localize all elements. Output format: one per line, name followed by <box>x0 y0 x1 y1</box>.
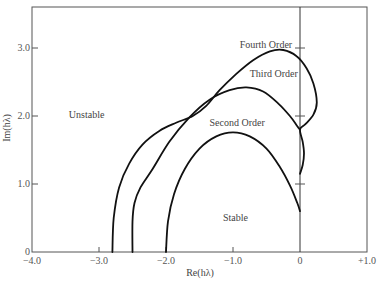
y-tick-label: 1.0 <box>18 178 31 189</box>
x-axis-label: Re(hλ) <box>186 267 214 279</box>
x-tick-label: 0 <box>298 255 303 266</box>
y-axis-label: Im(hλ) <box>1 114 13 142</box>
y-tick-label: 2.0 <box>18 110 31 121</box>
plot-frame <box>32 7 367 252</box>
annotations: Fourth OrderThird OrderSecond OrderUnsta… <box>69 39 299 223</box>
x-axis-ticks: −4.0−3.0−2.0−1.00+1.0 <box>23 247 376 266</box>
label-fourth-order: Fourth Order <box>240 39 293 50</box>
stability-curves <box>112 50 316 252</box>
x-tick-label: +1.0 <box>358 255 376 266</box>
label-stable: Stable <box>223 212 249 223</box>
label-third-order: Third Order <box>250 68 299 79</box>
label-unstable: Unstable <box>69 109 105 120</box>
y-tick-label: 3.0 <box>18 42 31 53</box>
stability-region-chart: −4.0−3.0−2.0−1.00+1.0 01.02.03.0 Fourth … <box>0 0 381 285</box>
x-tick-label: −2.0 <box>157 255 175 266</box>
x-tick-label: −3.0 <box>90 255 108 266</box>
label-second-order: Second Order <box>210 117 266 128</box>
y-tick-label: 0 <box>25 246 30 257</box>
curve-second-order <box>166 132 300 252</box>
curve-fourth-order <box>112 50 316 252</box>
x-tick-label: −1.0 <box>224 255 242 266</box>
curve-third-order <box>132 87 300 252</box>
